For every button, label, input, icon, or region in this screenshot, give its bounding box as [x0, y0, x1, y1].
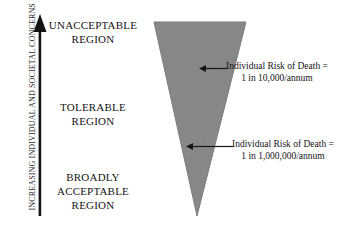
callout-leader-upper-arrow-icon: [199, 64, 229, 73]
callout-upper-line-1: Individual Risk of Death =: [226, 60, 328, 72]
region-label-broadly-acceptable: BROADLY ACCEPTABLE REGION: [42, 170, 144, 212]
risk-triangle-shape: [152, 20, 248, 218]
region-label-line-1: UNACCEPTABLE: [49, 19, 137, 31]
region-label-line-3: REGION: [72, 199, 115, 211]
region-label-unacceptable: UNACCEPTABLE REGION: [46, 18, 140, 46]
region-label-line-2: ACCEPTABLE: [57, 185, 129, 197]
region-label-line-2: REGION: [72, 115, 115, 127]
callout-lower-line-2: 1 in 1,000,000/annum: [232, 150, 334, 162]
region-label-line-2: REGION: [72, 33, 115, 45]
callout-upper-line-2: 1 in 10,000/annum: [226, 72, 328, 84]
callout-upper-risk: Individual Risk of Death = 1 in 10,000/a…: [226, 60, 328, 84]
region-label-tolerable: TOLERABLE REGION: [46, 100, 140, 128]
callout-lower-risk: Individual Risk of Death = 1 in 1,000,00…: [232, 138, 334, 162]
callout-lower-line-1: Individual Risk of Death =: [232, 138, 334, 150]
axis-caption: INCREASING INDIVIDUAL AND SOCIETAL CONCE…: [28, 11, 37, 211]
region-label-line-1: BROADLY: [66, 171, 119, 183]
region-label-line-1: TOLERABLE: [60, 101, 126, 113]
callout-leader-lower-arrow-icon: [186, 142, 234, 151]
risk-triangle-diagram: INCREASING INDIVIDUAL AND SOCIETAL CONCE…: [0, 0, 352, 233]
